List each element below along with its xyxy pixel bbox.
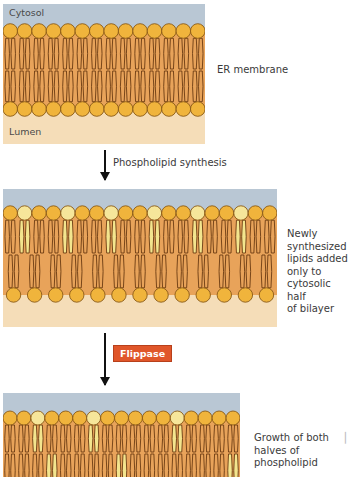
description-line: only to: [287, 266, 352, 279]
description-line: lipids added: [287, 253, 352, 266]
description-line: of bilayer: [287, 303, 352, 316]
down-arrow-icon: [104, 333, 106, 385]
newly-synthesized-description: Newly synthesized lipids added only to c…: [287, 228, 352, 316]
down-arrow-icon: [104, 150, 106, 180]
phospholipid-synthesis-label: Phospholipid synthesis: [113, 157, 227, 170]
description-line: halves of: [254, 445, 329, 458]
lipid-bilayer-illustration: [3, 393, 240, 477]
flippase-badge: Flippase: [113, 345, 172, 362]
description-line: Growth of both: [254, 432, 329, 445]
lumen-label: Lumen: [9, 126, 41, 137]
description-line: synthesized: [287, 241, 352, 254]
clipped-text-fragment: ▏: [345, 432, 352, 445]
cytosol-label: Cytosol: [9, 7, 44, 18]
er-membrane-label: ER membrane: [217, 64, 288, 77]
panel-er-membrane: Cytosol Lumen: [3, 4, 205, 144]
panel-newly-synthesized: [3, 189, 277, 327]
description-line: cytosolic half: [287, 278, 352, 303]
growth-description: Growth of both halves of phospholipid: [254, 432, 329, 470]
description-line: Newly: [287, 228, 352, 241]
panel-growth-both-halves: [3, 393, 240, 477]
lipid-bilayer-illustration: [3, 189, 277, 327]
lipid-bilayer-illustration: [3, 4, 205, 144]
description-line: phospholipid: [254, 457, 329, 470]
